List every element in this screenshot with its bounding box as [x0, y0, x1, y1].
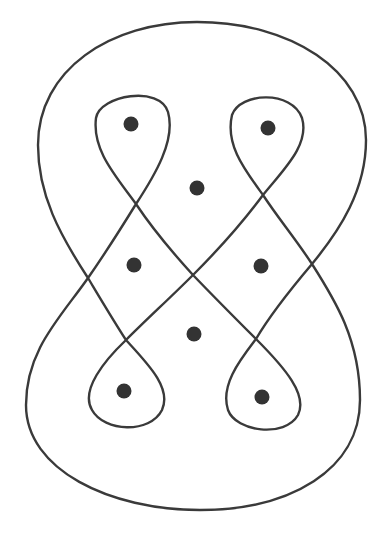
closed-curve	[26, 22, 366, 510]
dot-upper-center	[190, 181, 205, 196]
dot-bottom-left-loop	[117, 384, 132, 399]
dot-bottom-right-loop	[255, 390, 270, 405]
dot-middle-left	[127, 258, 142, 273]
dot-middle-right	[254, 259, 269, 274]
points	[117, 117, 276, 405]
knot-diagram	[0, 0, 389, 536]
dot-top-right-loop	[261, 121, 276, 136]
dot-top-left-loop	[124, 117, 139, 132]
dot-lower-center	[187, 327, 202, 342]
